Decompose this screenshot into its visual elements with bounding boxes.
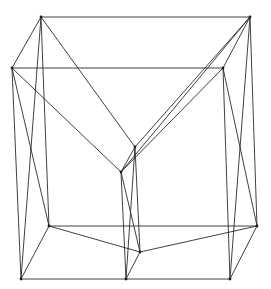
- edge-E-L: [135, 147, 140, 252]
- vertices-group: [11, 16, 259, 281]
- edge-G-L: [49, 226, 140, 252]
- vertex-C: [11, 67, 14, 70]
- vertex-G: [48, 225, 51, 228]
- vertex-I: [20, 278, 23, 281]
- vertex-E: [134, 146, 137, 149]
- vertex-B: [249, 16, 252, 19]
- edge-B-H: [250, 17, 257, 226]
- edge-D-H: [223, 68, 257, 226]
- edge-A-G: [41, 17, 49, 226]
- edge-C-F: [12, 68, 121, 172]
- edge-B-E: [135, 17, 250, 147]
- edge-D-K: [223, 68, 230, 279]
- edge-G-I: [21, 226, 49, 279]
- edge-L-H: [140, 226, 257, 252]
- vertex-H: [256, 225, 259, 228]
- edge-A-C: [12, 17, 41, 68]
- vertex-D: [222, 67, 225, 70]
- edge-B-F: [121, 17, 250, 172]
- vertex-F: [120, 171, 123, 174]
- vertex-J: [125, 278, 128, 281]
- edge-H-K: [230, 226, 257, 279]
- edge-A-E: [41, 17, 135, 147]
- vertex-K: [229, 278, 232, 281]
- vertex-A: [40, 16, 43, 19]
- edge-D-F: [121, 68, 223, 172]
- edge-L-J: [126, 252, 140, 279]
- vertex-L: [139, 251, 142, 254]
- wireframe-diagram: [0, 0, 271, 289]
